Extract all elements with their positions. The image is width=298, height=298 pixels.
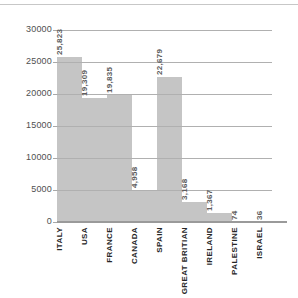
bar (107, 95, 132, 222)
x-category-label: FRANCE (105, 227, 115, 298)
y-tick-label: 10000 (10, 152, 52, 162)
bar-chart: 05000100001500020000250003000025,823ITAL… (0, 0, 298, 298)
x-category-label: ITALY (55, 227, 65, 298)
bar (182, 202, 207, 222)
bar (82, 98, 107, 222)
y-axis-tick (53, 94, 57, 95)
bar-value-label: 74 (230, 176, 240, 220)
y-tick-label: 25000 (10, 56, 52, 66)
gridline (57, 158, 272, 159)
y-tick-label: 0 (10, 216, 52, 226)
bar-value-label: 1,367 (205, 167, 215, 211)
y-tick-label: 20000 (10, 88, 52, 98)
bar-value-label: 19,309 (80, 52, 90, 96)
bar (57, 57, 82, 222)
y-tick-label: 5000 (10, 184, 52, 194)
y-axis-tick (53, 62, 57, 63)
x-category-label: SPAIN (155, 227, 165, 298)
x-category-label: PALESTINE (230, 227, 240, 298)
bar (157, 77, 182, 222)
gridline (57, 126, 272, 127)
bar (132, 190, 157, 222)
y-axis-tick (53, 126, 57, 127)
x-category-label: ISRAEL (255, 227, 265, 298)
x-axis-baseline (57, 221, 287, 223)
bar-value-label: 36 (255, 176, 265, 220)
x-category-label: GREAT BRITIAN (180, 227, 190, 298)
y-axis-tick (53, 158, 57, 159)
x-category-label: USA (80, 227, 90, 298)
bar-value-label: 25,823 (55, 11, 65, 55)
y-axis-tick (53, 190, 57, 191)
bar-value-label: 19,835 (105, 49, 115, 93)
bar-value-label: 22,679 (155, 31, 165, 75)
y-tick-label: 15000 (10, 120, 52, 130)
x-category-label: IRELAND (205, 227, 215, 298)
x-category-label: CANADA (130, 227, 140, 298)
y-tick-label: 30000 (10, 24, 52, 34)
bar-value-label: 3,168 (180, 156, 190, 200)
bar-value-label: 4,958 (130, 144, 140, 188)
